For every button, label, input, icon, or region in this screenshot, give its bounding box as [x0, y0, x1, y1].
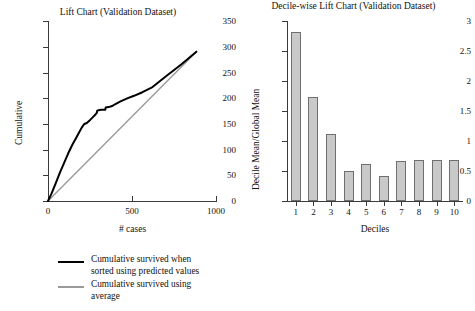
decile-y-tick-0 — [282, 201, 287, 202]
decile-y-tick-label-3: 3 — [428, 16, 471, 26]
legend-label-average-line2: average — [91, 291, 276, 303]
decile-x-tick-9 — [437, 201, 438, 206]
decile-x-tick-5 — [366, 201, 367, 206]
decile-bar-10 — [449, 160, 459, 201]
decile-bar-9 — [432, 160, 442, 201]
average-line — [48, 52, 196, 201]
decile-x-tick-2 — [313, 201, 314, 206]
decile-x-axis-label: Deciles — [287, 224, 463, 234]
decile-bar-2 — [308, 97, 318, 201]
decile-bar-6 — [379, 176, 389, 201]
decile-x-tick-7 — [401, 201, 402, 206]
decile-y-tick-label-1.5: 1.5 — [428, 106, 471, 116]
decile-y-tick-2 — [282, 81, 287, 82]
decile-y-tick-1.5 — [282, 111, 287, 112]
decile-x-tick-8 — [419, 201, 420, 206]
decile-y-tick-label-2: 2 — [428, 76, 471, 86]
decile-chart-panel: Decile-wise Lift Chart (Validation Datas… — [236, 0, 471, 250]
legend-label-predicted: Cumulative survived when sorted using pr… — [91, 254, 276, 277]
decile-chart-title: Decile-wise Lift Chart (Validation Datas… — [232, 1, 475, 12]
decile-bar-1 — [291, 32, 301, 201]
decile-bar-5 — [361, 164, 371, 201]
lift-chart-legend: Cumulative survived when sorted using pr… — [0, 250, 236, 311]
decile-bar-3 — [326, 134, 336, 201]
legend-label-average-line1: Cumulative survived using — [91, 279, 276, 291]
lift-chart-panel: Lift Chart (Validation Dataset) 0 50 100… — [0, 0, 236, 250]
decile-bar-4 — [344, 171, 354, 201]
decile-x-tick-1 — [296, 201, 297, 206]
decile-y-tick-1 — [282, 141, 287, 142]
legend-label-average: Cumulative survived using average — [91, 279, 276, 302]
lift-chart-plot — [0, 0, 236, 250]
predicted-line-swatch — [58, 261, 84, 263]
decile-y-axis-label: Decile Mean/Global Mean — [251, 89, 261, 190]
decile-y-tick-0.5 — [282, 171, 287, 172]
decile-y-tick-label-1: 1 — [428, 136, 471, 146]
decile-y-tick-2.5 — [282, 51, 287, 52]
decile-x-tick-6 — [384, 201, 385, 206]
decile-y-axis-line — [287, 21, 288, 201]
decile-x-tick-10 — [454, 201, 455, 206]
decile-bar-7 — [396, 161, 406, 201]
decile-y-tick-3 — [282, 21, 287, 22]
decile-x-tick-label-10: 10 — [440, 207, 468, 217]
decile-x-tick-4 — [349, 201, 350, 206]
legend-label-predicted-line2: sorted using predicted values — [91, 266, 276, 278]
decile-y-tick-label-2.5: 2.5 — [428, 46, 471, 56]
average-line-swatch — [58, 286, 84, 288]
decile-x-tick-3 — [331, 201, 332, 206]
legend-label-predicted-line1: Cumulative survived when — [91, 254, 276, 266]
decile-bar-8 — [414, 160, 424, 201]
